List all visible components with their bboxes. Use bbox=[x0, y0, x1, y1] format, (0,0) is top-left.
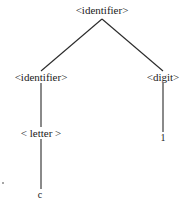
tree-edges bbox=[0, 0, 186, 205]
scan-artifact-dot bbox=[2, 182, 4, 184]
edge-root-to-identifier bbox=[41, 19, 102, 71]
node-letter: < letter > bbox=[20, 128, 63, 139]
edge-root-to-digit bbox=[102, 19, 163, 71]
node-digit: <digit> bbox=[146, 72, 181, 83]
node-root-identifier: <identifier> bbox=[75, 5, 130, 16]
parse-tree-diagram: <identifier> <identifier> <digit> < lett… bbox=[0, 0, 186, 205]
node-left-identifier: <identifier> bbox=[14, 72, 69, 83]
leaf-letter-c: c bbox=[37, 190, 43, 200]
leaf-digit-1: 1 bbox=[160, 133, 167, 143]
